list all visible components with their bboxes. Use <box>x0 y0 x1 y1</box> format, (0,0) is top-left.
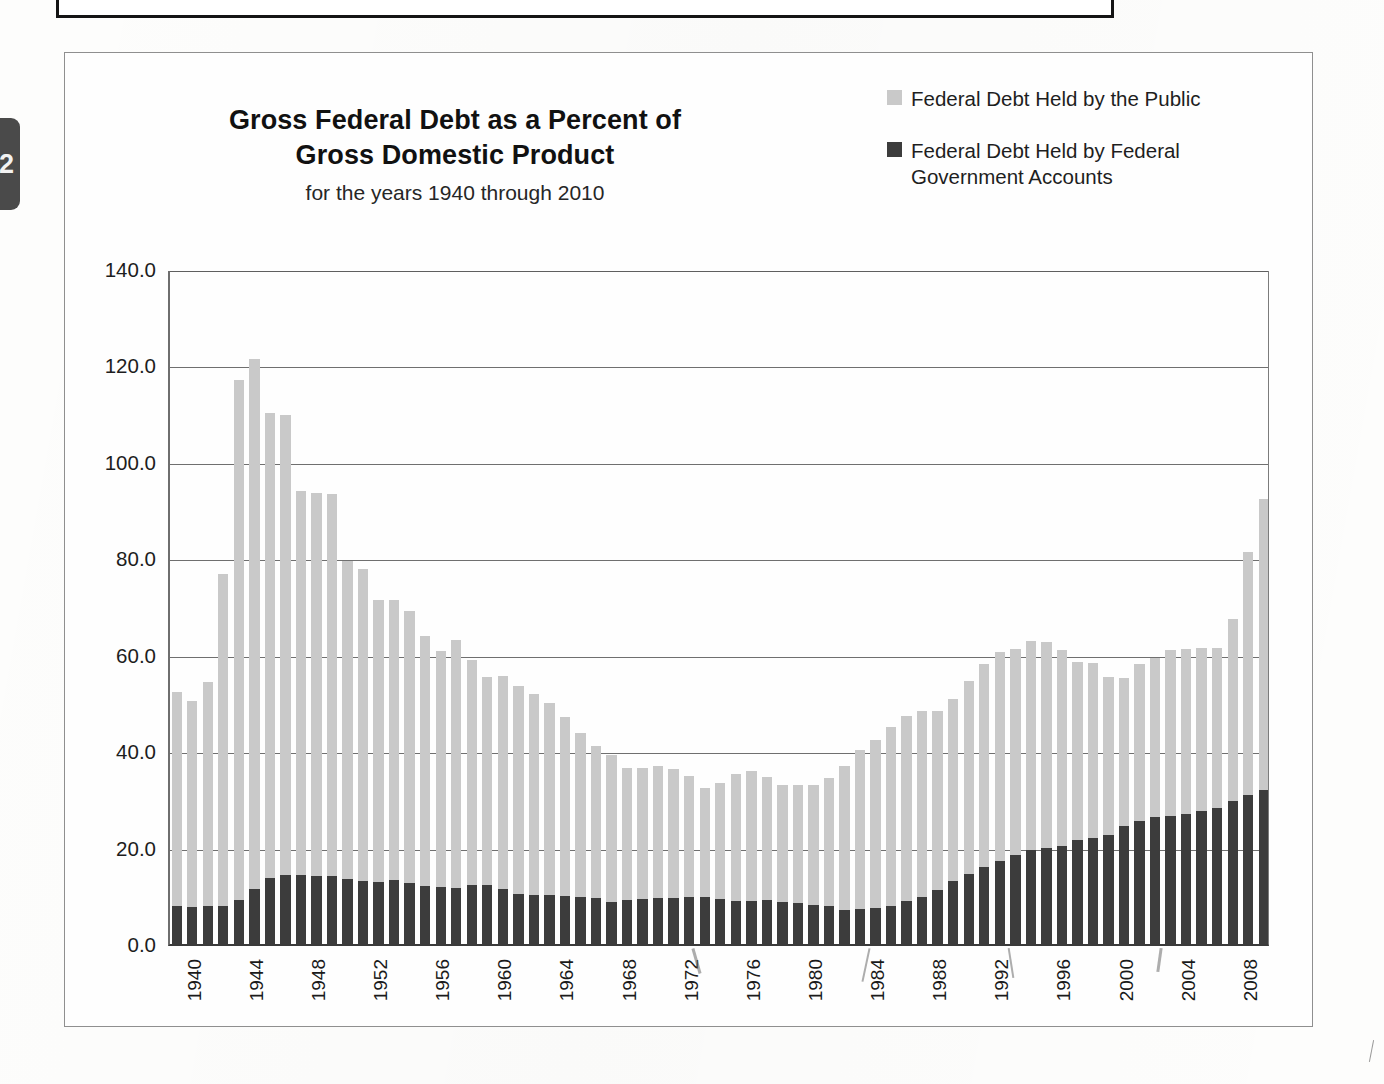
x-axis-tick-label: 2008 <box>1240 959 1262 1001</box>
legend-label-gov-accounts: Federal Debt Held by Federal Government … <box>911 138 1180 190</box>
x-axis-tick-label: 1996 <box>1053 959 1075 1001</box>
x-axis-tick-label: 1968 <box>619 959 641 1001</box>
legend-item-gov-accounts[interactable]: Federal Debt Held by Federal Government … <box>887 138 1287 190</box>
chart-container: Gross Federal Debt as a Percent of Gross… <box>64 52 1313 1027</box>
legend-item-public[interactable]: Federal Debt Held by the Public <box>887 86 1287 112</box>
page-top-box <box>56 0 1114 18</box>
y-axis-tick-label: 100.0 <box>36 451 156 475</box>
x-axis-tick-label: 1976 <box>743 959 765 1001</box>
y-axis-tick-label: 80.0 <box>36 547 156 571</box>
stray-pen-mark <box>1369 1040 1374 1062</box>
legend-label-public: Federal Debt Held by the Public <box>911 86 1200 112</box>
plot-frame <box>168 271 1269 946</box>
x-axis-tick-label: 1964 <box>556 959 578 1001</box>
x-axis-tick-label: 1944 <box>246 959 268 1001</box>
stray-pen-mark <box>1156 948 1162 972</box>
x-axis-tick-label: 1980 <box>805 959 827 1001</box>
page-side-tab[interactable]: 2 <box>0 118 20 210</box>
y-axis-tick-label: 0.0 <box>36 933 156 957</box>
y-axis-tick-label: 140.0 <box>36 258 156 282</box>
x-axis-tick-label: 1948 <box>308 959 330 1001</box>
legend-label-gov-accounts-line-2: Government Accounts <box>911 165 1113 188</box>
y-axis-tick-label: 20.0 <box>36 837 156 861</box>
x-axis-tick-label: 1940 <box>184 959 206 1001</box>
chart-legend: Federal Debt Held by the Public Federal … <box>887 86 1287 215</box>
x-axis-tick-label: 2004 <box>1178 959 1200 1001</box>
page-title: Gross Federal Debt as a Percent of Gross… <box>115 103 795 172</box>
plot-area: 0.020.040.060.080.0100.0120.0140.0 19401… <box>168 271 1269 946</box>
y-axis-tick-label: 120.0 <box>36 354 156 378</box>
legend-swatch-dark-icon <box>887 142 902 157</box>
x-axis-tick-label: 2000 <box>1116 959 1138 1001</box>
chart-title-line-2: Gross Domestic Product <box>115 138 795 173</box>
x-axis-tick-label: 1988 <box>929 959 951 1001</box>
x-axis-tick-label: 1952 <box>370 959 392 1001</box>
y-axis-tick-label: 60.0 <box>36 644 156 668</box>
chart-title-line-1: Gross Federal Debt as a Percent of <box>115 103 795 138</box>
legend-label-gov-accounts-line-1: Federal Debt Held by Federal <box>911 139 1180 162</box>
x-axis-tick-label: 1956 <box>432 959 454 1001</box>
x-axis-tick-label: 1984 <box>867 959 889 1001</box>
chart-subtitle: for the years 1940 through 2010 <box>115 179 795 206</box>
y-axis-tick-label: 40.0 <box>36 740 156 764</box>
x-axis-tick-label: 1960 <box>494 959 516 1001</box>
legend-swatch-light-icon <box>887 90 902 105</box>
chart-heading: Gross Federal Debt as a Percent of Gross… <box>115 103 795 206</box>
